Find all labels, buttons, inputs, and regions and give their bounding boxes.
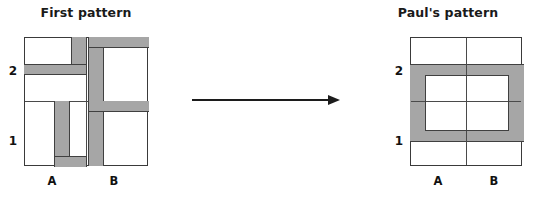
left-row-label-1: 1 bbox=[6, 135, 20, 147]
cell-B2-horizontal-arm bbox=[88, 37, 149, 48]
cell-A2-horizontal-arm bbox=[24, 64, 87, 75]
cell-B1 bbox=[86, 102, 148, 166]
cell-A2 bbox=[25, 38, 87, 101]
right-column-label-b: B bbox=[487, 176, 501, 188]
cell-A1-foot-arm bbox=[54, 156, 87, 167]
ring-inner-hole-outline bbox=[425, 75, 509, 131]
cell-A2-vertical-arm bbox=[71, 37, 87, 65]
first-pattern-panel: First pattern 2 1 A B bbox=[0, 0, 172, 197]
pauls-pattern-grid bbox=[410, 37, 522, 166]
cell-A1 bbox=[25, 102, 87, 166]
right-column-label-a: A bbox=[431, 176, 445, 188]
first-pattern-title: First pattern bbox=[0, 5, 172, 20]
right-row-label-2: 2 bbox=[392, 65, 406, 77]
pauls-pattern-title: Paul's pattern bbox=[362, 5, 534, 20]
first-pattern-grid bbox=[24, 37, 148, 166]
right-row-label-1: 1 bbox=[392, 135, 406, 147]
pauls-pattern-panel: Paul's pattern 2 1 A B bbox=[362, 0, 534, 197]
left-column-label-b: B bbox=[107, 176, 121, 188]
left-row-label-2: 2 bbox=[6, 65, 20, 77]
cell-B1-horizontal-arm bbox=[88, 101, 149, 112]
arrow-shaft bbox=[192, 99, 330, 101]
left-column-label-a: A bbox=[45, 176, 59, 188]
arrow-head-icon bbox=[328, 95, 340, 105]
diagram-canvas: First pattern 2 1 A B bbox=[0, 0, 534, 197]
transformation-arrow bbox=[192, 94, 344, 108]
cell-B2 bbox=[86, 38, 148, 101]
